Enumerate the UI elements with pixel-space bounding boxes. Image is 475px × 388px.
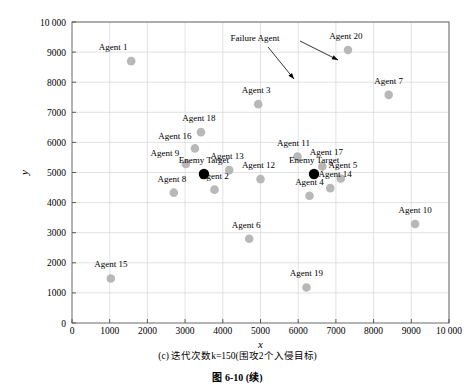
annotations-layer: Failure Agent xyxy=(230,33,338,79)
agent-marker xyxy=(169,188,178,197)
y-tick-label: 2000 xyxy=(47,258,66,268)
agent-label: Agent 20 xyxy=(329,31,363,41)
agent-label: Agent 7 xyxy=(374,76,403,86)
x-tick-label: 4000 xyxy=(213,326,232,336)
figure-number: 图 6-10 xyxy=(212,372,243,383)
x-tick-label: 8000 xyxy=(364,326,383,336)
agent-label: Agent 16 xyxy=(158,131,192,141)
agent-marker xyxy=(197,128,206,137)
agent-label: Agent 9 xyxy=(150,148,179,158)
y-tick-label: 9000 xyxy=(47,48,66,58)
figure-caption: 图 6-10 (续) xyxy=(0,369,475,384)
scatter-plot: 010002000300040005000600070008000900010 … xyxy=(0,0,475,388)
x-tick-label: 3000 xyxy=(176,326,195,336)
agent-marker xyxy=(302,283,311,292)
annotation-arrow-head xyxy=(332,55,338,60)
subcaption: (c) 迭代次数k=150(围攻2个入侵目标) xyxy=(0,348,475,362)
x-tick-label: 6000 xyxy=(289,326,308,336)
data-point-labels-layer: Agent 1Agent 2Agent 3Agent 4Agent 5Agent… xyxy=(94,31,432,278)
x-tick-label: 9000 xyxy=(402,326,421,336)
axis-tick-labels: 010002000300040005000600070008000900010 … xyxy=(40,18,462,337)
y-tick-label: 6000 xyxy=(47,138,66,148)
x-tick-label: 5000 xyxy=(251,326,270,336)
agent-label: Agent 8 xyxy=(157,174,186,184)
agent-marker xyxy=(256,175,265,184)
agent-label: Agent 11 xyxy=(277,138,310,148)
agent-label: Agent 12 xyxy=(242,160,275,170)
agent-marker xyxy=(245,234,254,243)
gridlines xyxy=(72,22,449,323)
agent-marker xyxy=(344,46,353,55)
y-tick-label: 10 000 xyxy=(40,18,66,28)
agent-label: Agent 6 xyxy=(232,220,261,230)
agent-marker xyxy=(191,144,200,153)
agent-marker xyxy=(107,274,116,283)
agent-label: Agent 3 xyxy=(242,85,271,95)
y-tick-label: 4000 xyxy=(47,198,66,208)
agent-label: Agent 10 xyxy=(398,205,432,215)
agent-marker xyxy=(210,185,219,194)
agent-marker xyxy=(411,220,420,229)
y-tick-label: 7000 xyxy=(47,108,66,118)
annotation-arrow-head xyxy=(288,73,294,79)
agent-marker xyxy=(127,57,136,66)
agent-marker xyxy=(384,91,393,100)
x-tick-label: 1000 xyxy=(100,326,119,336)
y-tick-label: 8000 xyxy=(47,78,66,88)
enemy-target-label: Enemy Target xyxy=(289,155,340,165)
figure-container: 010002000300040005000600070008000900010 … xyxy=(0,0,475,388)
agent-marker xyxy=(305,191,314,200)
y-tick-label: 0 xyxy=(61,319,66,329)
agent-label: Agent 14 xyxy=(319,169,353,179)
x-tick-label: 2000 xyxy=(138,326,157,336)
enemy-target-label: Enemy Target xyxy=(179,155,230,165)
y-tick-label: 1000 xyxy=(47,288,66,298)
y-axis-title: y xyxy=(18,170,30,176)
y-tick-label: 3000 xyxy=(47,228,66,238)
agent-label: Agent 15 xyxy=(94,259,128,269)
annotation-arrow-line xyxy=(300,41,338,60)
figure-continued-marker: (续) xyxy=(246,372,263,383)
y-tick-label: 5000 xyxy=(47,168,66,178)
agent-marker xyxy=(254,100,263,109)
agent-marker xyxy=(326,184,335,193)
x-tick-label: 10 000 xyxy=(436,326,462,336)
failure-agent-annotation: Failure Agent xyxy=(230,33,280,43)
x-tick-label: 0 xyxy=(70,326,75,336)
agent-label: Agent 2 xyxy=(200,171,229,181)
x-tick-label: 7000 xyxy=(326,326,345,336)
agent-label: Agent 19 xyxy=(290,268,324,278)
agent-label: Agent 1 xyxy=(99,42,128,52)
agent-label: Agent 18 xyxy=(182,113,216,123)
